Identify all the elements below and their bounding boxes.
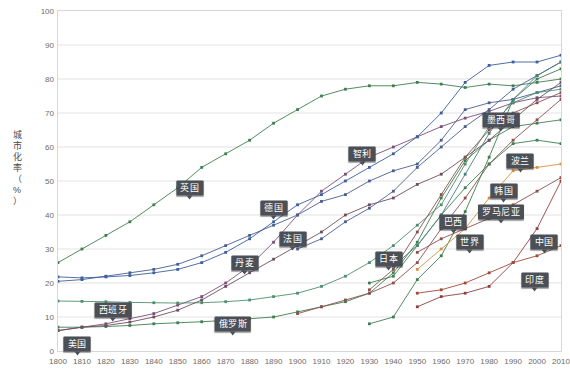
series-marker [368,261,371,264]
series-marker [488,108,491,111]
series-callout-美国[interactable]: 美国 [64,337,91,352]
series-marker [440,197,443,200]
series-marker [224,244,227,247]
series-marker [296,248,299,251]
series-marker [368,282,371,285]
series-marker [248,234,251,237]
series-marker [416,305,419,308]
series-marker [320,200,323,203]
series-marker [416,166,419,169]
series-marker [416,241,419,244]
series-marker [128,220,131,223]
series-marker [105,275,108,278]
series-marker [416,224,419,227]
series-marker [536,118,539,121]
series-marker [224,282,227,285]
series-marker [512,169,515,172]
series-marker [224,300,227,303]
series-marker [440,254,443,257]
series-marker [440,146,443,149]
series-callout-墨西哥[interactable]: 墨西哥 [483,112,520,127]
series-marker [416,81,419,84]
series-marker [416,244,419,247]
series-callout-俄罗斯[interactable]: 俄罗斯 [215,316,252,331]
series-marker [512,261,515,264]
x-axis-tick: 1950 [408,357,426,366]
series-callout-德国[interactable]: 德国 [260,201,287,216]
series-marker [296,312,299,315]
series-callout-罗马尼亚[interactable]: 罗马尼亚 [478,204,524,219]
series-marker [560,91,561,94]
series-marker [368,288,371,291]
series-marker [392,275,395,278]
series-marker [224,285,227,288]
y-axis-title-char: ） [4,196,30,207]
series-marker [200,320,203,323]
x-axis-tick: 1850 [169,357,187,366]
series-callout-世界[interactable]: 世界 [456,235,483,250]
series-callout-中国[interactable]: 中国 [531,235,558,250]
series-callout-智利[interactable]: 智利 [349,146,376,161]
series-callout-英国[interactable]: 英国 [176,180,203,195]
y-axis-title-char: 市 [4,141,30,152]
series-callout-巴西[interactable]: 巴西 [440,214,467,229]
series-marker [536,227,539,230]
series-marker [248,237,251,240]
series-callout-韩国[interactable]: 韩国 [490,184,517,199]
y-axis-tick: 20 [30,279,54,288]
series-marker [440,139,443,142]
series-callout-波兰[interactable]: 波兰 [507,153,534,168]
series-marker [152,312,155,315]
series-marker [536,61,539,64]
series-marker [368,180,371,183]
series-marker [392,271,395,274]
series-callout-日本[interactable]: 日本 [375,252,402,267]
series-marker [488,83,491,86]
series-marker [320,305,323,308]
series-marker [464,117,467,120]
series-marker [488,139,491,142]
series-marker [81,326,84,329]
series-marker [296,292,299,295]
series-marker [536,139,539,142]
series-marker [152,271,155,274]
series-marker [464,156,467,159]
series-marker [488,156,491,159]
series-marker [488,163,491,166]
y-axis-title-char: 城 [4,130,30,141]
series-marker [392,169,395,172]
x-axis-tick-labels: 1800181018201830184018501860187018801890… [0,357,567,377]
series-marker [464,210,467,213]
series-marker [272,241,275,244]
series-callout-法国[interactable]: 法国 [279,231,306,246]
y-axis-tick: 10 [30,313,54,322]
series-marker [58,326,59,329]
series-callout-丹麦[interactable]: 丹麦 [231,255,258,270]
series-0 [58,78,561,264]
series-marker [512,88,515,91]
series-3 [58,54,561,279]
x-axis-tick: 1970 [456,357,474,366]
series-callout-印度[interactable]: 印度 [521,272,548,287]
series-marker [464,86,467,89]
series-marker [464,163,467,166]
x-axis-tick: 2000 [528,357,546,366]
series-marker [152,316,155,319]
series-marker [560,67,561,70]
series-marker [512,142,515,145]
y-axis-tick: 90 [30,41,54,50]
series-marker [344,88,347,91]
series-marker [488,129,491,132]
series-marker [392,244,395,247]
series-marker [560,98,561,101]
series-marker [272,220,275,223]
series-marker [200,301,203,304]
series-callout-西班牙[interactable]: 西班牙 [95,303,132,318]
series-marker [560,244,561,247]
series-marker [200,254,203,257]
series-marker [128,324,131,327]
series-line [58,79,561,263]
series-marker [440,248,443,251]
series-marker [392,146,395,149]
